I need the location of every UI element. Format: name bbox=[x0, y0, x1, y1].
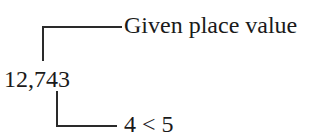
top-bracket-horizontal bbox=[42, 26, 122, 28]
number-value: 12,743 bbox=[4, 67, 70, 91]
bottom-bracket-horizontal bbox=[56, 125, 117, 127]
bottom-label: 4 < 5 bbox=[124, 112, 174, 136]
top-label: Given place value bbox=[124, 13, 297, 37]
bottom-bracket-vertical bbox=[56, 91, 58, 126]
top-bracket-vertical bbox=[42, 26, 44, 61]
